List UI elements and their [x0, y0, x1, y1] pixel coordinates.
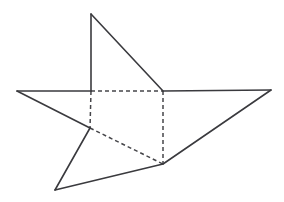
star-figure-canvas	[0, 0, 284, 202]
solid-edge-upper-right-arm	[163, 90, 271, 91]
figure-background	[0, 0, 284, 202]
